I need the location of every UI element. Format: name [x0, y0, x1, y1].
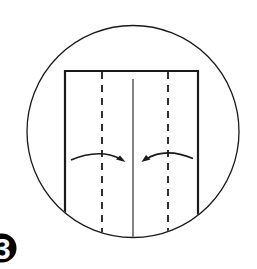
step-number-badge: 3	[0, 232, 17, 265]
step-number-text: 3	[0, 232, 11, 265]
origami-step-diagram: 3	[0, 0, 257, 269]
